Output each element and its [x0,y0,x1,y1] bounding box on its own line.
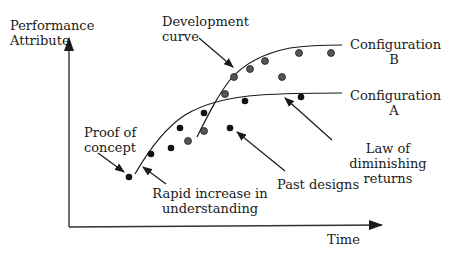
development-point [231,74,238,81]
past-design-point [148,151,155,158]
development-point [247,66,254,73]
diagram-canvas: Performance Attribute Development curve … [0,0,449,255]
development-point [201,128,208,135]
proof-of-concept-arrow [98,153,124,172]
configuration-a-label: Configuration A [350,88,438,118]
development-point [296,50,303,57]
past-design-point [177,125,184,132]
development-point [328,50,335,57]
configuration-b-label: Configuration B [350,37,438,67]
y-axis-label-line2: Attribute [10,33,94,48]
past-designs-label: Past designs [277,177,359,192]
proof-of-concept-point [126,174,133,181]
past-design-point [242,98,249,105]
curves [135,45,342,174]
proof-of-concept-label: Proof of concept [84,125,136,155]
configuration-a-label-line1: Configuration [350,88,438,103]
development-curve-label-line2: curve [162,29,249,44]
past-design-point [298,94,305,101]
past-designs-arrow [237,132,285,171]
development-curve [197,45,342,137]
rapid-increase-arrow [143,167,166,184]
development-curve-label: Development curve [162,14,249,44]
rapid-increase-label-line2: understanding [150,201,270,216]
rapid-increase-label: Rapid increase in understanding [150,186,270,216]
law-of-diminishing-returns-label: Law of diminishing returns [348,141,428,186]
law-label-line3: returns [348,171,428,186]
law-of-diminishing-arrow [285,98,332,140]
development-point [185,138,192,145]
development-point [262,58,269,65]
x-axis-label: Time [327,232,360,247]
configuration-b-label-line1: Configuration [350,37,438,52]
development-point [279,74,286,81]
development-point [222,91,229,98]
law-label-line2: diminishing [348,156,428,171]
past-design-point [227,125,234,132]
development-curve-label-line1: Development [162,14,249,29]
rapid-increase-label-line1: Rapid increase in [150,186,270,201]
past-design-point [168,145,175,152]
proof-of-concept-label-line2: concept [84,140,136,155]
configuration-b-label-line2: B [350,52,438,67]
past-design-point [201,110,208,117]
law-label-line1: Law of [348,141,428,156]
y-axis-label: Performance Attribute [10,18,94,48]
annotation-arrows [98,38,332,184]
y-axis-label-line1: Performance [10,18,94,33]
x-axis [69,225,382,227]
proof-of-concept-label-line1: Proof of [84,125,136,140]
configuration-a-label-line2: A [350,103,438,118]
